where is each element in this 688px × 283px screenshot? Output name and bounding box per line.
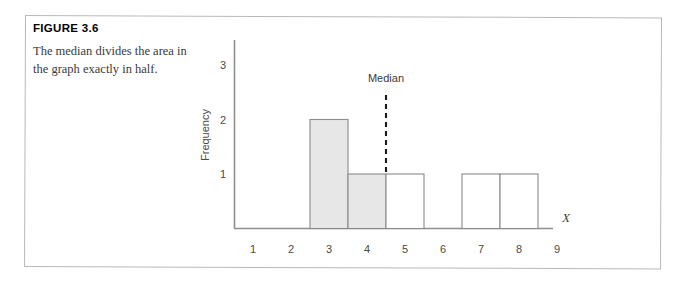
- figure-caption-text: The median divides the area in the graph…: [33, 42, 198, 78]
- figure-number: FIGURE 3.6: [33, 22, 213, 35]
- figure-page: FIGURE 3.6 The median divides the area i…: [0, 0, 688, 283]
- figure-caption-block: FIGURE 3.6 The median divides the area i…: [33, 22, 213, 78]
